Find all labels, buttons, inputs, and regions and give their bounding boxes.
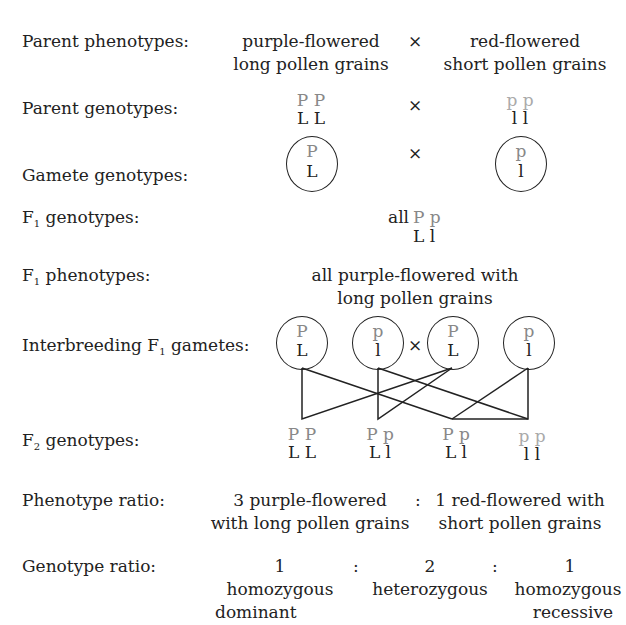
f2-genotype: L L bbox=[282, 442, 322, 462]
parent-left-genotype-p: P P bbox=[291, 90, 331, 110]
cross-symbol: × bbox=[405, 335, 425, 355]
gamete-allele: l bbox=[358, 341, 398, 360]
genotype-ratio-num: 1 bbox=[520, 556, 620, 576]
parent-right-phenotype-2: short pollen grains bbox=[440, 54, 610, 74]
parent-right-genotype-l: l l bbox=[500, 108, 540, 128]
cross-symbol: × bbox=[405, 95, 425, 115]
label-parent-phenotypes: Parent phenotypes: bbox=[22, 31, 189, 51]
parent-left-genotype-l: L L bbox=[291, 108, 331, 128]
genotype-ratio-desc: recessive bbox=[520, 602, 626, 622]
gamete-right-p: p bbox=[501, 142, 541, 161]
cross-symbol: × bbox=[405, 31, 425, 51]
f1-phenotype-1: all purple-flowered with bbox=[300, 265, 530, 285]
f2-genotype: p p bbox=[512, 426, 552, 446]
genotype-ratio-desc: heterozygous bbox=[365, 579, 495, 599]
parent-right-phenotype-1: red-flowered bbox=[440, 31, 610, 51]
label-genotype-ratio: Genotype ratio: bbox=[22, 556, 156, 576]
label-parent-genotypes: Parent genotypes: bbox=[22, 98, 178, 118]
f2-genotype: P p bbox=[436, 424, 476, 444]
cross-symbol: × bbox=[405, 143, 425, 163]
label-interbreeding: Interbreeding F1 gametes: bbox=[22, 335, 250, 362]
f2-genotype: L l bbox=[436, 442, 476, 462]
phenotype-ratio-left: 3 purple-flowered bbox=[210, 490, 410, 510]
f1-phenotype-2: long pollen grains bbox=[300, 288, 530, 308]
f1-genotype-p: P p bbox=[413, 207, 441, 227]
gamete-right-l: l bbox=[501, 162, 541, 181]
gamete-allele: p bbox=[509, 322, 549, 341]
f2-genotype: P p bbox=[360, 424, 400, 444]
label-f1-phenotypes: F1 phenotypes: bbox=[22, 265, 150, 292]
parent-right-genotype-p: p p bbox=[500, 90, 540, 110]
gamete-allele: L bbox=[282, 341, 322, 360]
f2-genotype: l l bbox=[512, 444, 552, 464]
f1-genotype-prefix: all bbox=[388, 207, 409, 227]
label-gamete-genotypes: Gamete genotypes: bbox=[22, 165, 188, 185]
gamete-allele: L bbox=[433, 341, 473, 360]
phenotype-ratio-left: with long pollen grains bbox=[210, 513, 410, 533]
genotype-ratio-desc: homozygous bbox=[510, 579, 626, 599]
label-phenotype-ratio: Phenotype ratio: bbox=[22, 490, 165, 510]
gamete-allele: P bbox=[433, 322, 473, 341]
gamete-left-p: P bbox=[292, 142, 332, 161]
parent-left-phenotype-2: long pollen grains bbox=[226, 54, 396, 74]
gamete-allele: P bbox=[282, 322, 322, 341]
ratio-separator: : bbox=[353, 556, 359, 576]
phenotype-ratio-right: short pollen grains bbox=[430, 513, 610, 533]
ratio-separator: : bbox=[415, 490, 421, 510]
f1-genotype-l: L l bbox=[413, 226, 435, 246]
f2-genotype: L l bbox=[360, 442, 400, 462]
genotype-ratio-desc: dominant bbox=[215, 602, 297, 622]
gamete-allele: p bbox=[358, 322, 398, 341]
label-f1-genotypes: F1 genotypes: bbox=[22, 207, 140, 234]
label-f2-genotypes: F2 genotypes: bbox=[22, 430, 140, 457]
parent-left-phenotype-1: purple-flowered bbox=[226, 31, 396, 51]
genotype-ratio-num: 1 bbox=[230, 556, 330, 576]
phenotype-ratio-right: 1 red-flowered with bbox=[430, 490, 610, 510]
gamete-allele: l bbox=[509, 341, 549, 360]
genotype-ratio-desc: homozygous bbox=[220, 579, 340, 599]
genotype-ratio-num: 2 bbox=[380, 556, 480, 576]
gamete-left-l: L bbox=[292, 162, 332, 181]
f2-genotype: P P bbox=[282, 424, 322, 444]
ratio-separator: : bbox=[492, 556, 498, 576]
